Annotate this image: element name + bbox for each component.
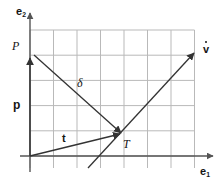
vector-t-arrow (30, 134, 120, 156)
point-t-label: T (123, 138, 130, 150)
overdot-icon (205, 41, 207, 43)
vector-diagram-figure: e2 e1 P p δ t T v (0, 0, 224, 183)
vector-p-label: p (13, 99, 20, 111)
grid-vertical-lines (30, 30, 195, 168)
point-p-label: P (12, 40, 19, 52)
vector-t-label: t (62, 133, 66, 144)
vector-v-dot-label: v (203, 44, 209, 55)
diagram-canvas (0, 0, 224, 183)
x-axis-label: e1 (200, 166, 210, 178)
y-axis-label: e2 (16, 6, 26, 18)
grid-horizontal-lines (30, 30, 195, 156)
axis-lines (20, 13, 213, 172)
vector-delta-label: δ (77, 77, 83, 89)
vector-v-dot-label-text: v (203, 43, 209, 55)
y-axis-label-subscript: 2 (22, 11, 26, 18)
vector-v-dot-arrow (88, 53, 194, 168)
x-axis-label-subscript: 1 (206, 171, 210, 178)
